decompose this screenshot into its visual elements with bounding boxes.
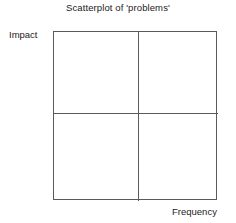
x-axis-label: Frequency [172, 206, 217, 218]
scatterplot-figure: Scatterplot of 'problems' Impact Priorit… [0, 0, 236, 223]
plot-area-frame: Priority for development [53, 31, 217, 200]
quadrant-bottom-right [139, 114, 218, 201]
y-axis-label: Impact [9, 29, 38, 41]
annotation-priority-line-1: Priority for [228, 49, 236, 62]
quadrant-divider-horizontal [54, 113, 218, 114]
quadrant-top-right: Priority for development [139, 32, 218, 113]
annotation-priority-line-2: development [228, 62, 236, 75]
quadrant-bottom-left [54, 114, 138, 201]
quadrant-top-left [54, 32, 138, 113]
chart-title: Scatterplot of 'problems' [0, 2, 236, 14]
quadrant-divider-vertical [138, 32, 139, 201]
annotation-priority-for-development: Priority for development [228, 49, 236, 74]
